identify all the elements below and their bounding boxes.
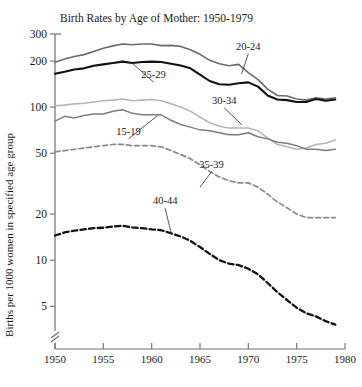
x-tick-label: 1980 (334, 353, 357, 365)
x-tick-label: 1955 (92, 353, 115, 365)
birth-rates-chart: Birth Rates by Age of Mother: 1950-1979 … (0, 0, 362, 387)
series-label-20-24: 20-24 (236, 41, 261, 52)
x-tick-label: 1960 (141, 353, 164, 365)
series-label-30-34: 30-34 (212, 95, 237, 106)
y-tick-label: 300 (30, 28, 48, 40)
y-tick-label: 50 (36, 147, 48, 159)
y-tick-label: 200 (30, 55, 48, 67)
y-tick-label: 20 (36, 208, 48, 220)
series-label-40-44: 40-44 (153, 195, 178, 206)
x-tick-label: 1965 (189, 353, 212, 365)
chart-canvas: Birth Rates by Age of Mother: 1950-1979 … (0, 0, 362, 387)
y-tick-label: 100 (30, 101, 48, 113)
chart-background (0, 0, 362, 387)
y-axis-title: Births per 1000 women in specified age g… (3, 133, 15, 337)
chart-title: Birth Rates by Age of Mother: 1950-1979 (60, 12, 253, 25)
series-label-15-19: 15-19 (116, 126, 141, 137)
series-label-25-29: 25-29 (141, 69, 166, 80)
y-tick-label: 10 (36, 254, 48, 266)
x-tick-label: 1975 (286, 353, 309, 365)
y-tick-label: 5 (41, 300, 47, 312)
series-label-35-39: 35-39 (199, 159, 224, 170)
x-tick-label: 1970 (237, 353, 260, 365)
x-tick-label: 1950 (44, 353, 67, 365)
